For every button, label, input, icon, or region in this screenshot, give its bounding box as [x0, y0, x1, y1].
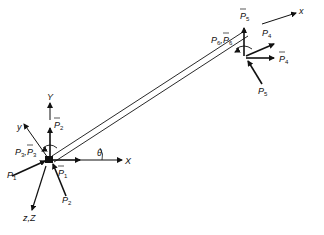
label-p4: P4	[262, 28, 272, 39]
label-p6-p6-bar: P6,P6	[211, 35, 233, 46]
z-axis-label: z,Z	[22, 213, 36, 223]
theta-label: θ	[97, 148, 102, 158]
local-x-axis: x	[262, 6, 304, 24]
label-p5: P5	[258, 86, 268, 97]
local-x-label: x	[298, 6, 304, 16]
label-p2-bar: P2	[54, 120, 64, 131]
label-p3-p3-bar: P3,P3	[15, 147, 37, 158]
global-x-axis: X	[78, 156, 132, 166]
global-y-label: Y	[47, 92, 54, 102]
z-axis: z,Z	[22, 166, 46, 223]
label-p5-bar: P5	[240, 11, 250, 22]
global-y-axis: Y	[47, 92, 54, 120]
beam-element	[52, 30, 248, 162]
global-x-label: X	[124, 156, 132, 166]
label-p2: P2	[62, 195, 72, 206]
label-p1-bar: P1	[58, 168, 68, 179]
label-p1: P1	[7, 170, 17, 181]
label-p4-bar: P4	[279, 54, 289, 65]
beam-diagram: X θ Y y z,Z P2 P1	[0, 0, 324, 235]
node-2: P5 P4 P4 P5 P6,P6	[211, 9, 289, 97]
local-y-label: y	[16, 122, 22, 132]
angle-theta: θ	[97, 148, 103, 160]
